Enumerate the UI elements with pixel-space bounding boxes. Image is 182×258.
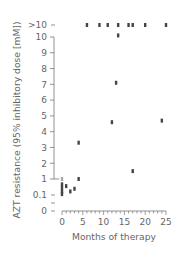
data-point bbox=[111, 120, 113, 124]
y-tick-2: 2 bbox=[41, 159, 47, 169]
x-axis: 0510152025 bbox=[59, 211, 172, 227]
data-point bbox=[117, 23, 119, 27]
data-point bbox=[107, 23, 109, 27]
y-tick-9: 9 bbox=[41, 48, 47, 58]
y-tick-4: 4 bbox=[41, 127, 47, 137]
data-point bbox=[77, 177, 79, 181]
data-point bbox=[77, 141, 79, 145]
y-tick-0: 0 bbox=[41, 206, 47, 216]
y-axis-label: AZT resistance (95% inhibitory dose [mM]… bbox=[11, 21, 22, 218]
y-tick-0.1: 0.1 bbox=[33, 190, 47, 200]
y-tick-10: 10 bbox=[36, 32, 48, 42]
scatter-chart: AZT resistance (95% inhibitory dose [mM]… bbox=[0, 0, 182, 258]
data-point bbox=[65, 184, 67, 188]
y-tick-8: 8 bbox=[41, 64, 47, 74]
data-point bbox=[61, 192, 63, 196]
y-tick-1: 1 bbox=[41, 174, 47, 184]
data-points bbox=[61, 23, 167, 196]
x-tick-5: 5 bbox=[80, 217, 86, 227]
x-axis-label: Months of therapy bbox=[72, 231, 157, 242]
data-point bbox=[117, 33, 119, 37]
data-point bbox=[132, 23, 134, 27]
data-point bbox=[98, 23, 100, 27]
y-axis-ticks: >10109876543210.10 bbox=[28, 20, 55, 216]
y-tick-7: 7 bbox=[41, 80, 47, 90]
data-point bbox=[61, 182, 63, 186]
y-tick-3: 3 bbox=[41, 143, 47, 153]
x-tick-20: 20 bbox=[139, 217, 151, 227]
y-tick-5: 5 bbox=[41, 111, 47, 121]
data-point bbox=[127, 23, 129, 27]
data-point bbox=[165, 23, 167, 27]
data-point bbox=[115, 81, 117, 85]
data-point bbox=[161, 119, 163, 123]
data-point bbox=[144, 23, 146, 27]
x-tick-10: 10 bbox=[98, 217, 110, 227]
x-tick-15: 15 bbox=[119, 217, 130, 227]
data-point bbox=[61, 177, 63, 181]
data-point bbox=[69, 189, 71, 193]
data-point bbox=[61, 186, 63, 190]
x-tick-25: 25 bbox=[160, 217, 171, 227]
data-point bbox=[132, 169, 134, 173]
y-tick-gt10: >10 bbox=[28, 20, 47, 30]
data-point bbox=[73, 187, 75, 191]
data-point bbox=[86, 23, 88, 27]
y-tick-6: 6 bbox=[41, 95, 47, 105]
x-tick-0: 0 bbox=[59, 217, 65, 227]
